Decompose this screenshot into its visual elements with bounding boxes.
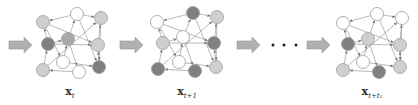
graph-node: [37, 64, 50, 77]
edge: [169, 39, 176, 41]
graph-node: [357, 56, 370, 69]
graph-node: [362, 33, 375, 46]
graph-node: [394, 39, 407, 52]
edge: [354, 44, 393, 45]
edge: [199, 14, 210, 16]
label-sub: t+t₁: [368, 92, 382, 100]
edge: [54, 44, 91, 45]
edge: [350, 16, 371, 22]
graph-node: [371, 8, 384, 21]
edge: [380, 20, 398, 61]
right-arrow-icon: [120, 37, 143, 53]
edge: [344, 51, 346, 64]
graph-node: [37, 16, 50, 29]
graph-node: [151, 16, 164, 29]
edge: [70, 45, 77, 65]
graph-evolution-svg: [0, 0, 418, 105]
graph-node: [189, 65, 202, 78]
graph-node: [337, 64, 350, 77]
right-arrow-icon: [237, 37, 260, 53]
graph-label-xtt1: xt+t₁: [362, 85, 383, 100]
ellipsis-dot: [295, 44, 298, 47]
edge: [383, 15, 395, 17]
edge: [345, 30, 347, 38]
edge: [185, 43, 193, 64]
graph-label-xt: xt: [65, 85, 74, 100]
edge: [165, 69, 189, 70]
graph-node: [187, 7, 200, 20]
graph-node: [95, 12, 108, 25]
edge: [159, 29, 161, 37]
edge: [370, 21, 374, 33]
graph-node: [208, 37, 221, 50]
graph-node: [337, 17, 350, 30]
graph-node: [211, 11, 224, 24]
graph-node: [42, 38, 55, 51]
right-arrow-icon: [9, 37, 32, 53]
graph-node: [342, 38, 355, 51]
graph-node: [396, 12, 409, 25]
ellipsis-dot: [283, 44, 286, 47]
edge: [159, 50, 161, 63]
edge: [215, 24, 216, 37]
edge: [50, 70, 73, 71]
label-sub: t: [72, 92, 75, 100]
diagram-canvas: xt xt+1 xt+t₁: [0, 0, 418, 105]
graph-node: [173, 56, 186, 69]
graph-node: [177, 31, 190, 44]
graph-node: [394, 61, 407, 74]
edge: [354, 41, 361, 43]
graph-node: [73, 66, 86, 79]
graph-node: [62, 33, 75, 46]
label-sub: t+1: [184, 92, 197, 100]
edge: [370, 45, 377, 65]
graph-node: [157, 37, 170, 50]
graph-node: [152, 63, 165, 76]
graph-node: [57, 56, 70, 69]
graph-label-xt1: xt+1: [177, 85, 197, 100]
ellipsis-dot: [272, 44, 275, 47]
edge: [215, 50, 216, 61]
edge: [186, 19, 191, 31]
edge: [83, 15, 94, 17]
graph-node: [92, 39, 105, 52]
edge: [45, 29, 47, 38]
graph-node: [93, 61, 106, 74]
graph-node: [71, 8, 84, 21]
edge: [164, 15, 187, 21]
nodes-layer: [37, 7, 409, 79]
edge: [54, 41, 61, 43]
edge: [180, 44, 182, 56]
graph-node: [373, 66, 386, 79]
edge: [50, 15, 71, 20]
ellipsis-dots: [272, 44, 298, 47]
graph-node: [210, 61, 223, 74]
edge: [44, 51, 46, 64]
edge: [70, 21, 74, 33]
edge: [350, 70, 373, 71]
right-arrow-icon: [307, 37, 330, 53]
